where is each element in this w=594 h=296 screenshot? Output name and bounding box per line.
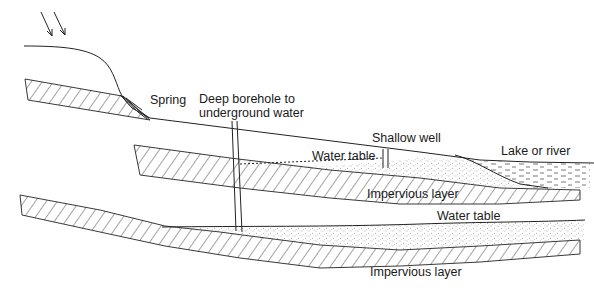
lower-impervious-label: Impervious layer — [370, 265, 462, 279]
groundwater-diagram: Spring Deep borehole to underground wate… — [0, 0, 594, 296]
upper-water-table-label: Water table — [312, 149, 376, 163]
borehole-label-line1: Deep borehole to — [199, 92, 295, 106]
rain-arrows-icon — [41, 12, 65, 36]
lake-label: Lake or river — [501, 144, 570, 158]
upper-impervious-label: Impervious layer — [367, 187, 459, 201]
spring-rock-layer — [25, 79, 150, 120]
lower-water-table-label: Water table — [437, 209, 501, 223]
spring-label: Spring — [150, 93, 186, 107]
borehole-label-line2: underground water — [199, 106, 304, 120]
shallow-well-label: Shallow well — [372, 131, 441, 145]
